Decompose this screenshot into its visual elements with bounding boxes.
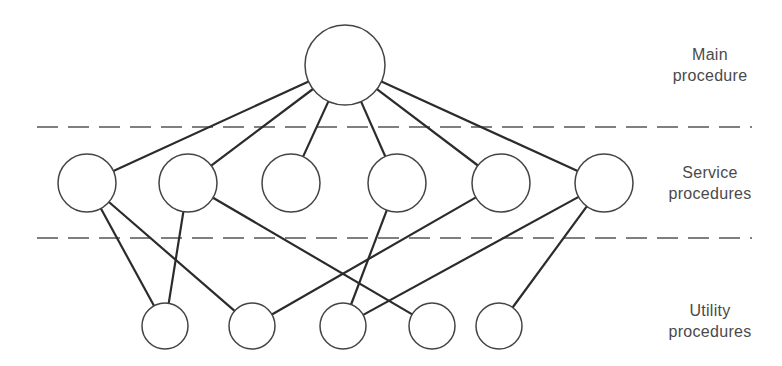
utility-label-line2: procedures bbox=[640, 321, 780, 342]
utility-label-line1: Utility bbox=[640, 300, 780, 321]
main-label-line2: procedure bbox=[640, 65, 780, 86]
edge-S6-U3 bbox=[363, 197, 578, 315]
utility-procedure-node-U2 bbox=[229, 303, 275, 349]
service-label-line2: procedures bbox=[640, 183, 780, 204]
edge-M-S4 bbox=[361, 102, 385, 157]
service-procedure-node-S2 bbox=[159, 154, 217, 212]
edge-S2-U4 bbox=[213, 198, 412, 315]
utility-procedure-node-U1 bbox=[142, 303, 188, 349]
utility-procedures-label: Utility procedures bbox=[640, 300, 780, 342]
edge-S4-U3 bbox=[351, 210, 387, 304]
utility-procedure-node-U3 bbox=[320, 303, 366, 349]
edge-M-S3 bbox=[303, 101, 328, 156]
service-procedure-node-S5 bbox=[472, 154, 530, 212]
main-procedure-node-M bbox=[305, 25, 385, 105]
service-procedures-label: Service procedures bbox=[640, 162, 780, 204]
edge-S6-U5 bbox=[513, 206, 587, 307]
procedure-nodes bbox=[58, 25, 633, 349]
edge-S1-U1 bbox=[101, 209, 154, 306]
main-procedure-label: Main procedure bbox=[640, 44, 780, 86]
utility-procedure-node-U5 bbox=[476, 303, 522, 349]
main-label-line1: Main bbox=[640, 44, 780, 65]
service-procedure-node-S3 bbox=[262, 154, 320, 212]
service-procedure-node-S6 bbox=[575, 154, 633, 212]
service-label-line1: Service bbox=[640, 162, 780, 183]
service-procedure-node-S1 bbox=[58, 154, 116, 212]
utility-procedure-node-U4 bbox=[409, 303, 455, 349]
service-procedure-node-S4 bbox=[368, 154, 426, 212]
edge-S2-U1 bbox=[169, 212, 184, 304]
edge-S5-U2 bbox=[272, 197, 476, 314]
